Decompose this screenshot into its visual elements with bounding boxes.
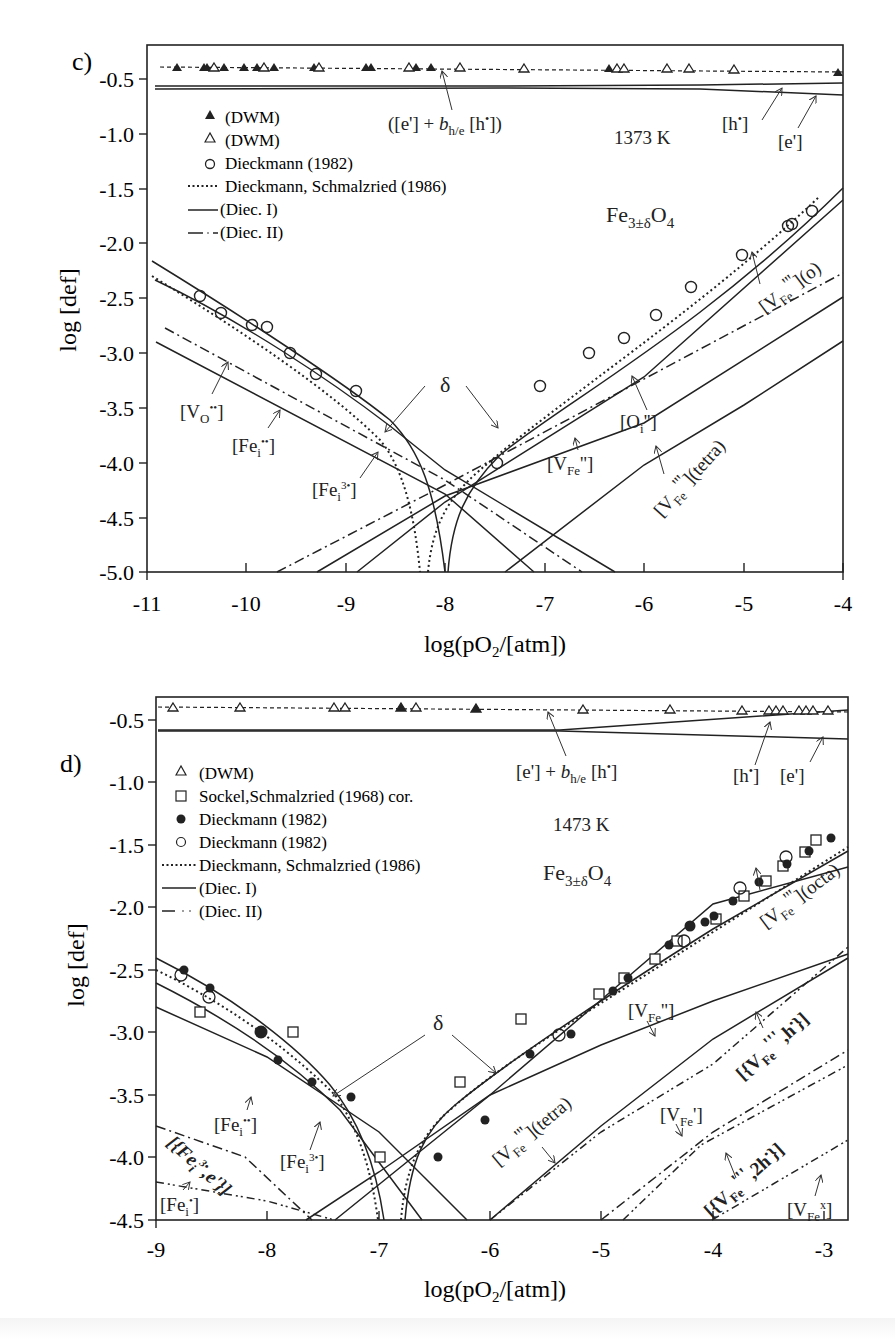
markers-open-circle-d bbox=[175, 851, 792, 1041]
electrons-curve-c bbox=[155, 88, 843, 95]
svg-text:-2.5: -2.5 bbox=[109, 958, 144, 983]
figure-canvas: c) -0.5 -1.0 -1.5 -2.0 -2.5 -3.0 -3.5 -4… bbox=[0, 0, 895, 1339]
oi-label-c: [Oi''] bbox=[620, 411, 657, 436]
svg-text:[{VFe''',h•}]: [{VFe''',h•}] bbox=[728, 1004, 815, 1087]
h-label-d: [h•] bbox=[733, 764, 759, 786]
svg-text:(Diec. I): (Diec. I) bbox=[199, 879, 257, 898]
sum-label-c: ([e'] + bh/e [h•]) bbox=[388, 112, 502, 138]
svg-text:-9: -9 bbox=[337, 591, 355, 616]
markers-open-triangle-d bbox=[168, 703, 833, 714]
fei3-label-d: [Fei3•] bbox=[280, 1151, 325, 1176]
svg-text:Dieckmann (1982): Dieckmann (1982) bbox=[199, 833, 327, 852]
markers-open-square-d bbox=[195, 835, 821, 1162]
legend-marker-filled-triangle bbox=[205, 110, 215, 119]
svg-text:-8: -8 bbox=[258, 1237, 276, 1262]
panel-label-c: c) bbox=[72, 47, 92, 76]
vfe2-label-d: [VFe''] bbox=[628, 1000, 674, 1025]
vfe2-label-c: [VFe''] bbox=[547, 453, 593, 478]
ds1986-right-c bbox=[428, 196, 820, 572]
legend-marker-open-triangle bbox=[205, 133, 215, 142]
svg-text:(Diec. II): (Diec. II) bbox=[199, 902, 262, 921]
svg-text:-3.0: -3.0 bbox=[109, 1020, 144, 1045]
vfe3-h-line-d bbox=[490, 947, 848, 1220]
svg-text:-4: -4 bbox=[704, 1237, 722, 1262]
compound-label-c: Fe3±δO4 bbox=[606, 202, 675, 231]
svg-text:-3.0: -3.0 bbox=[99, 341, 134, 366]
vo-line-c bbox=[165, 328, 582, 572]
vo-label-c: [VO••] bbox=[180, 401, 223, 426]
x-axis-title-c: log(pO2/[atm]) bbox=[424, 631, 566, 660]
svg-text:[{Fei3•,e'}]: [{Fei3•,e'}] bbox=[161, 1131, 236, 1202]
vfe1-label-d: [VFe'] bbox=[660, 1104, 703, 1129]
holes-curve-c bbox=[155, 83, 843, 86]
svg-text:-3: -3 bbox=[815, 1237, 833, 1262]
svg-text:Dieckmann (1982): Dieckmann (1982) bbox=[199, 810, 327, 829]
x-tick-labels-c: -11 -10 -9 -8 -7 -6 -5 -4 bbox=[133, 591, 852, 616]
e-label-d: [e'] bbox=[780, 765, 805, 786]
svg-text:-5: -5 bbox=[735, 591, 753, 616]
svg-text:-4: -4 bbox=[834, 591, 852, 616]
legend-marker-open-circle bbox=[177, 838, 186, 847]
vfe3-tetra-line-d bbox=[490, 958, 848, 1220]
svg-text:-4.5: -4.5 bbox=[109, 1208, 144, 1233]
svg-text:Sockel,Schmalzried (1968) cor.: Sockel,Schmalzried (1968) cor. bbox=[199, 787, 413, 806]
sum-label-d: [e'] + bh/e [h•] bbox=[516, 760, 617, 786]
svg-text:-11: -11 bbox=[133, 591, 162, 616]
fei2-label-d: [Fei••] bbox=[214, 1114, 257, 1139]
legend-marker-filled-circle bbox=[177, 815, 186, 824]
legend-line-dashdot bbox=[189, 910, 191, 912]
vfe3-tetra-label-d: [VFe'''](tetra) bbox=[485, 1088, 578, 1173]
scan-footer-artifact bbox=[0, 1318, 895, 1339]
svg-text:[VFe'''](tetra): [VFe'''](tetra) bbox=[646, 432, 733, 523]
svg-text:-8: -8 bbox=[436, 591, 454, 616]
panel-c: c) -0.5 -1.0 -1.5 -2.0 -2.5 -3.0 -3.5 -4… bbox=[55, 45, 852, 660]
vfe3-octa-label-d: [VFe'''](octa) bbox=[753, 855, 846, 936]
compound-label-d: Fe3±δO4 bbox=[543, 860, 612, 889]
svg-text:[{VFe''',2h•}]: [{VFe''',2h•}] bbox=[696, 1135, 790, 1224]
svg-text:(Diec. II): (Diec. II) bbox=[220, 223, 283, 242]
fei1-label-d: [Fei•] bbox=[160, 1194, 199, 1219]
legend-marker-open-square bbox=[176, 791, 186, 801]
ds1986-left-c bbox=[152, 276, 420, 572]
svg-text:Dieckmann (1982): Dieckmann (1982) bbox=[225, 154, 353, 173]
svg-text:-2.0: -2.0 bbox=[99, 231, 134, 256]
h-label-c: [h•] bbox=[722, 112, 748, 134]
svg-text:-7: -7 bbox=[370, 1237, 388, 1262]
fei3-cont-c bbox=[390, 426, 615, 572]
delta-label-d: δ bbox=[433, 1010, 443, 1035]
y-tick-labels-d: -0.5 -1.0 -1.5 -2.0 -2.5 -3.0 -3.5 -4.0 … bbox=[109, 708, 144, 1233]
svg-text:-7: -7 bbox=[536, 591, 554, 616]
e-label-c: [e'] bbox=[778, 131, 803, 152]
svg-text:-5: -5 bbox=[592, 1237, 610, 1262]
svg-text:-1.0: -1.0 bbox=[99, 122, 134, 147]
legend-marker-open-circle bbox=[206, 160, 215, 169]
svg-text:[VFe'''](octa): [VFe'''](octa) bbox=[753, 855, 846, 936]
panel-d: d) -0.5 -1.0 -1.5 -2.0 -2.5 -3.0 -3.5 -4… bbox=[60, 697, 848, 1305]
svg-text:-6: -6 bbox=[635, 591, 653, 616]
y-tick-labels-c: -0.5 -1.0 -1.5 -2.0 -2.5 -3.0 -3.5 -4.0 … bbox=[99, 67, 134, 585]
svg-text:-4.0: -4.0 bbox=[99, 451, 134, 476]
vfe3-h-label-d: [{VFe''',h•}] bbox=[728, 1004, 815, 1087]
svg-text:(DWM): (DWM) bbox=[225, 131, 280, 150]
svg-text:-3.5: -3.5 bbox=[109, 1083, 144, 1108]
y-axis-d bbox=[148, 720, 156, 1220]
vfe2-line-d bbox=[306, 954, 848, 1220]
svg-text:-0.5: -0.5 bbox=[109, 708, 144, 733]
legend-d: (DWM) Sockel,Schmalzried (1968) cor. Die… bbox=[162, 764, 420, 921]
electrons-curve-d bbox=[158, 731, 848, 739]
temperature-label-d: 1473 K bbox=[553, 814, 610, 835]
svg-text:(DWM): (DWM) bbox=[199, 764, 254, 783]
panel-label-d: d) bbox=[60, 749, 82, 778]
svg-text:-6: -6 bbox=[481, 1237, 499, 1262]
delta-label-c: δ bbox=[440, 372, 450, 397]
legend-marker-open-triangle bbox=[176, 766, 186, 775]
vfe2-line-c bbox=[317, 297, 843, 572]
vfe3-tetra-label-c: [VFe'''](tetra) bbox=[646, 432, 733, 523]
svg-text:Dieckmann, Schmalzried (1986): Dieckmann, Schmalzried (1986) bbox=[199, 856, 420, 875]
svg-text:-1.0: -1.0 bbox=[109, 770, 144, 795]
svg-text:-2.5: -2.5 bbox=[99, 286, 134, 311]
y-axis-title-c: log [def] bbox=[55, 268, 81, 351]
vfe3-2h-label-d: [{VFe''',2h•}] bbox=[696, 1135, 790, 1224]
x-tick-labels-d: -9 -8 -7 -6 -5 -4 -3 bbox=[147, 1237, 833, 1262]
svg-text:(Diec. I): (Diec. I) bbox=[220, 200, 278, 219]
